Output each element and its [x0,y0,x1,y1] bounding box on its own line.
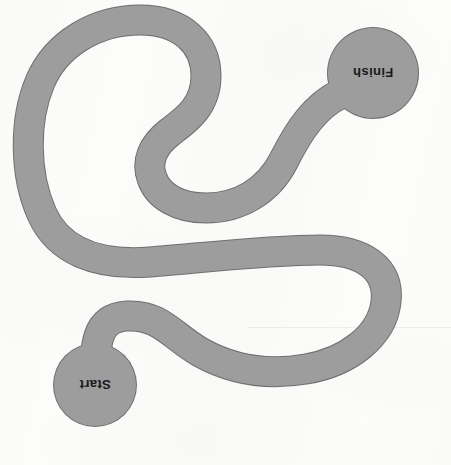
finish-label: Finish [333,65,413,80]
maze-puzzle-canvas: Finish Start [0,0,451,465]
start-label: Start [57,377,133,392]
